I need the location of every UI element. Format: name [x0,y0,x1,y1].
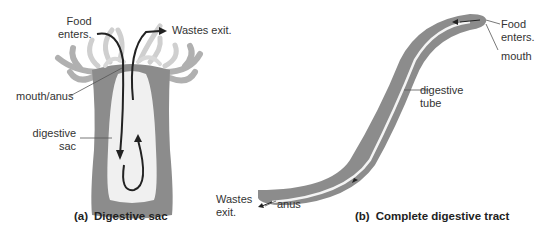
label-wastes-exit-b: Wastes exit. [216,193,252,219]
caption-panel-a: (a)Digestive sac [74,210,168,222]
label-food-enters-a: Food enters. [58,15,92,41]
label-line: Wastes [216,193,252,206]
label-line: sac [30,140,76,153]
worm-illustration [258,14,500,208]
caption-panel-b: (b)Complete digestive tract [355,210,509,222]
label-line: enters. [501,31,535,44]
caption-text: Digestive sac [94,210,168,222]
label-line: digestive [420,84,463,97]
label-anus: anus [277,198,301,211]
label-line: Food [501,18,535,31]
label-line: Food [58,15,92,28]
caption-tag: (b) [355,210,370,222]
label-line: tube [420,97,463,110]
label-wastes-exit-a: Wastes exit. [172,24,232,37]
hydra-illustration [58,26,200,219]
label-digestive-tube: digestive tube [420,84,463,110]
label-food-enters-b: Food enters. [501,18,535,44]
caption-tag: (a) [74,210,88,222]
label-mouth-anus: mouth/anus [16,90,73,103]
digestive-tube [272,22,470,202]
label-digestive-sac: digestive sac [30,127,76,153]
label-line: enters. [58,28,92,41]
caption-text: Complete digestive tract [376,210,510,222]
label-line: digestive [30,127,76,140]
label-mouth: mouth [501,50,532,63]
label-line: exit. [216,206,252,219]
